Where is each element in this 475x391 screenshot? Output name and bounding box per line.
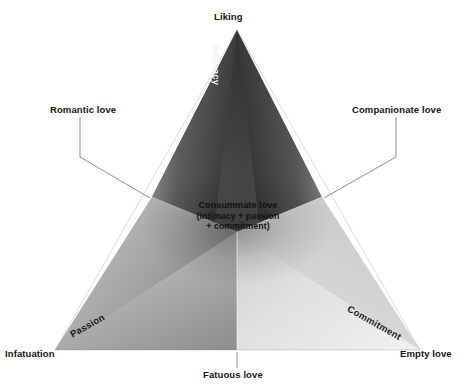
corner-label-empty-love: Empty love xyxy=(400,348,452,359)
leader-line-romantic xyxy=(80,117,150,198)
edge-label-companionate-love: Companionate love xyxy=(352,104,441,115)
corner-label-liking: Liking xyxy=(214,11,243,22)
diagram-canvas: Liking Infatuation Empty love Romantic l… xyxy=(0,0,475,391)
edge-label-romantic-love: Romantic love xyxy=(50,104,116,115)
leader-line-companionate xyxy=(324,117,396,198)
center-label-line2: + commitment) xyxy=(168,221,308,232)
center-label-line1: (intimacy + passion xyxy=(168,211,308,222)
center-label-consummate-love: Consummate love (intimacy + passion + co… xyxy=(168,200,308,232)
edge-label-fatuous-love: Fatuous love xyxy=(203,369,263,380)
center-label-title: Consummate love xyxy=(168,200,308,211)
component-label-intimacy: Intimacy xyxy=(211,45,222,85)
corner-label-infatuation: Infatuation xyxy=(5,348,55,359)
